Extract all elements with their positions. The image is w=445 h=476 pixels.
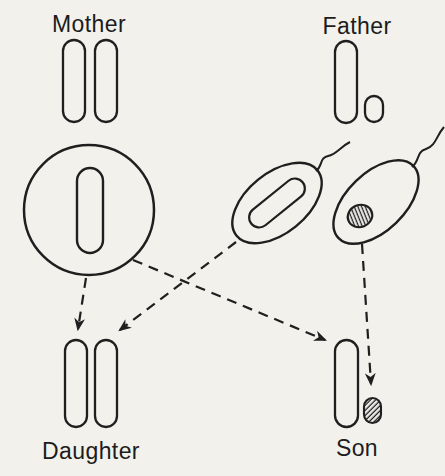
mother-x-chromosome-1-icon [63,40,85,122]
son-label: Son [336,435,378,461]
y-sperm-icon [318,127,444,259]
daughter-x-chromosome-1-icon [65,340,87,427]
x-sperm-icon [218,142,350,259]
son-y-chromosome-icon [364,398,381,423]
inheritance-diagram: Mother Father Daughter Son [0,0,445,476]
x-sperm-tail [316,142,350,171]
y-sperm-chromosome-icon [344,201,375,231]
arrow-egg-to-son-icon [133,260,325,340]
mother-x-chromosome-2-icon [95,40,117,122]
father-y-chromosome-icon [365,96,383,122]
father-label: Father [323,13,392,39]
mother-label: Mother [52,11,126,37]
son-x-chromosome-icon [335,340,358,427]
diagram-canvas: Mother Father Daughter Son [0,0,445,476]
y-sperm-tail [412,127,444,167]
father-x-chromosome-icon [335,41,357,123]
daughter-x-chromosome-2-icon [95,340,117,427]
egg-cell-membrane [24,145,154,275]
daughter-label: Daughter [42,438,140,464]
egg-x-chromosome-icon [77,168,103,253]
arrow-egg-to-daughter-icon [78,278,86,329]
egg-cell-icon [24,145,154,275]
arrow-ysperm-to-son-icon [362,244,371,384]
